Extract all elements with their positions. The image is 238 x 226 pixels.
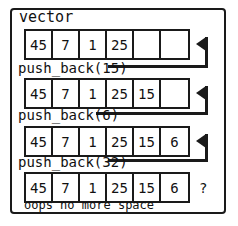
vector-row-after-push-6: 45 7 1 25 15 6: [24, 126, 190, 157]
vector-cell: 7: [53, 80, 80, 107]
vector-cell: 25: [107, 31, 134, 58]
operation-label-push-back-32: push_back(32): [18, 154, 128, 170]
vector-cell: 7: [53, 128, 80, 155]
vector-cell: 6: [161, 174, 188, 201]
push-connector-vertical: [205, 37, 208, 68]
overflow-question-mark: ?: [199, 180, 207, 196]
vector-cell: 25: [107, 128, 134, 155]
vector-cell: 1: [80, 128, 107, 155]
vector-cell-empty: [134, 31, 161, 58]
vector-cell: 45: [26, 174, 53, 201]
vector-pushback-diagram: vector 45 7 1 25 push_back(15) 45 7 1 25…: [0, 0, 238, 226]
vector-cell: 15: [134, 80, 161, 107]
vector-cell: 1: [80, 174, 107, 201]
vector-row-after-push-15: 45 7 1 25 15: [24, 78, 190, 109]
push-connector-vertical: [205, 134, 208, 162]
vector-cell: 45: [26, 80, 53, 107]
vector-cell: 45: [26, 128, 53, 155]
vector-cell: 45: [26, 31, 53, 58]
vector-cell: 6: [161, 128, 188, 155]
vector-row-initial: 45 7 1 25: [24, 29, 190, 60]
operation-label-push-back-6: push_back(6): [18, 107, 119, 123]
operation-label-push-back-15: push_back(15): [18, 60, 128, 76]
vector-cell: 25: [107, 80, 134, 107]
overflow-caption: oops no more space: [24, 198, 154, 212]
vector-cell-empty: [161, 80, 188, 107]
vector-cell: 15: [134, 128, 161, 155]
push-connector-vertical: [205, 86, 208, 115]
vector-cell: 25: [107, 174, 134, 201]
vector-cell-empty: [161, 31, 188, 58]
diagram-title: vector: [19, 9, 73, 26]
vector-cell: 7: [53, 31, 80, 58]
vector-cell: 1: [80, 31, 107, 58]
vector-cell: 15: [134, 174, 161, 201]
vector-cell: 1: [80, 80, 107, 107]
vector-cell: 7: [53, 174, 80, 201]
